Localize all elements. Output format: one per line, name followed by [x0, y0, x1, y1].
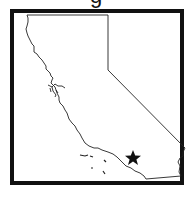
bay-area-detail — [48, 84, 65, 97]
california-outline — [26, 15, 185, 179]
california-map — [0, 0, 192, 197]
channel-islands — [80, 155, 106, 174]
star-icon — [125, 150, 141, 165]
